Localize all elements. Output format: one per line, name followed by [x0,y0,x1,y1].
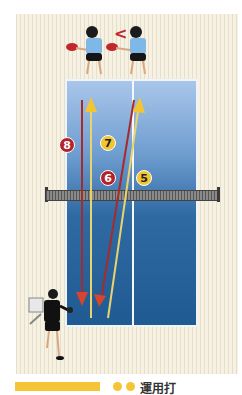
route-badge-7: 7 [100,135,116,151]
ball-robot-icon [29,298,43,312]
bottom-player-figure [26,288,76,363]
caption-dot-2 [126,382,135,391]
route-6-line [101,100,134,300]
route-badge-5: 5 [136,170,152,186]
caption-text: 運用打 [140,379,176,395]
route-badge-6: 6 [100,170,116,186]
caption-dot-1 [113,382,122,391]
caption-highlight-bar [15,382,100,391]
route-badge-8: 8 [59,137,75,153]
